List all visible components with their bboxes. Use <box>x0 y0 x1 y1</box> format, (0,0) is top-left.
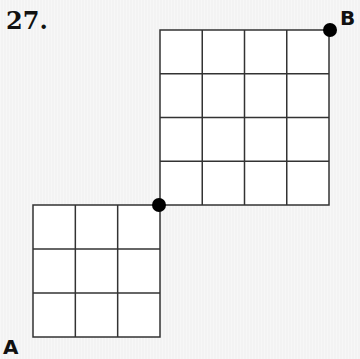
point-b-dot <box>323 23 337 37</box>
large-grid <box>160 30 329 205</box>
small-grid <box>33 205 160 337</box>
junction-dot <box>152 198 166 212</box>
point-a-label: A <box>3 335 18 359</box>
point-b-label: B <box>340 6 355 30</box>
small-grid-border <box>33 205 160 337</box>
